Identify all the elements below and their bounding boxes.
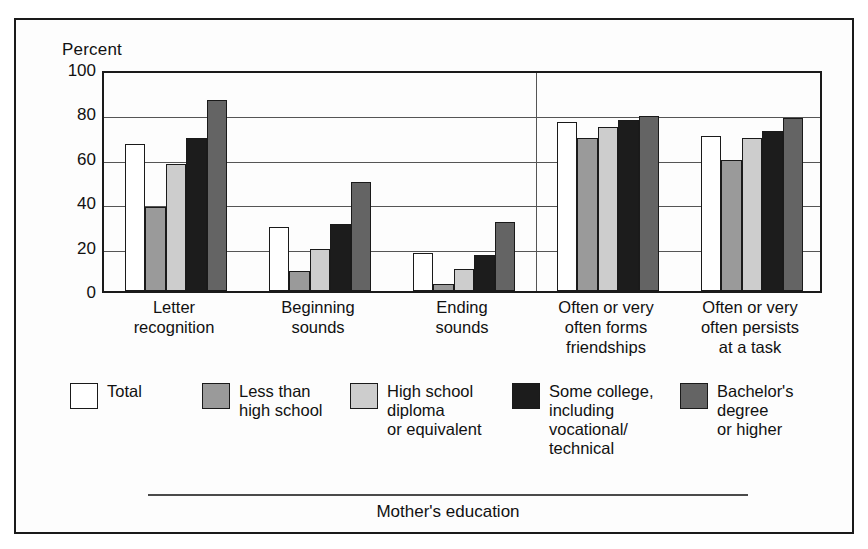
x-category-label-line: sounds xyxy=(246,317,390,337)
x-category-label-line: Letter xyxy=(102,297,246,317)
legend-item[interactable]: Some college, including vocational/ tech… xyxy=(512,382,654,458)
y-axis-tick-labels: 020406080100 xyxy=(50,71,96,293)
chart-legend: TotalLess than high schoolHigh school di… xyxy=(62,382,822,474)
x-category-label-line: Often or very xyxy=(534,297,678,317)
bar xyxy=(742,138,763,291)
y-tick-label: 60 xyxy=(56,150,96,170)
bar xyxy=(721,160,742,291)
x-category-label-line: often persists xyxy=(678,317,822,337)
x-category-label-line: recognition xyxy=(102,317,246,337)
x-category-label: Letterrecognition xyxy=(102,297,246,337)
chart-figure: Percent 020406080100 LetterrecognitionBe… xyxy=(14,18,854,534)
x-category-label-line: friendships xyxy=(534,337,678,357)
legend-item[interactable]: Less than high school xyxy=(202,382,322,420)
legend-label: Less than high school xyxy=(239,382,322,420)
y-tick-label: 0 xyxy=(56,283,96,303)
x-category-label-line: Ending xyxy=(390,297,534,317)
x-category-label-line: at a task xyxy=(678,337,822,357)
legend-label: Bachelor's degree or higher xyxy=(717,382,794,439)
y-tick-label: 80 xyxy=(56,105,96,125)
legend-swatch-icon xyxy=(350,383,378,409)
bar xyxy=(783,118,804,291)
legend-swatch-icon xyxy=(512,383,540,409)
plot-area xyxy=(102,71,822,293)
legend-swatch-icon xyxy=(70,383,98,409)
y-tick-label: 20 xyxy=(56,239,96,259)
footer-axis-rule xyxy=(148,494,748,496)
group-divider xyxy=(536,73,537,291)
plot-frame xyxy=(102,71,822,293)
x-category-label-line: sounds xyxy=(390,317,534,337)
bar xyxy=(762,131,783,291)
y-axis-title: Percent xyxy=(62,40,122,60)
x-category-label: Often or veryoften persistsat a task xyxy=(678,297,822,357)
x-category-label: Endingsounds xyxy=(390,297,534,337)
legend-label: Total xyxy=(107,382,142,401)
legend-item[interactable]: Total xyxy=(70,382,142,409)
legend-label: Some college, including vocational/ tech… xyxy=(549,382,654,458)
bar xyxy=(701,136,722,291)
legend-swatch-icon xyxy=(202,383,230,409)
y-tick-label: 100 xyxy=(56,61,96,81)
legend-label: High school diploma or equivalent xyxy=(387,382,481,439)
bar-group xyxy=(104,73,824,291)
legend-item[interactable]: High school diploma or equivalent xyxy=(350,382,481,439)
x-category-label-line: often forms xyxy=(534,317,678,337)
legend-item[interactable]: Bachelor's degree or higher xyxy=(680,382,794,439)
y-tick-label: 40 xyxy=(56,194,96,214)
x-category-label-line: Often or very xyxy=(678,297,822,317)
x-category-label: Often or veryoften formsfriendships xyxy=(534,297,678,357)
x-category-label: Beginningsounds xyxy=(246,297,390,337)
legend-swatch-icon xyxy=(680,383,708,409)
x-category-label-line: Beginning xyxy=(246,297,390,317)
x-axis-category-labels: LetterrecognitionBeginningsoundsEndingso… xyxy=(102,297,822,345)
footer-axis-label: Mother's education xyxy=(148,502,748,522)
